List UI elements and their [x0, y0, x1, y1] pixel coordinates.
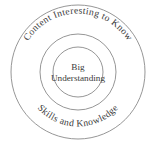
inner-circle-label-line2: Understanding	[51, 73, 105, 83]
inner-circle-label-line1: Big	[71, 62, 85, 72]
diagram-canvas: Content Interesting to Know Skills and K…	[0, 0, 157, 152]
inner-circle	[53, 47, 103, 97]
concentric-circles-diagram: Content Interesting to Know Skills and K…	[0, 0, 157, 152]
